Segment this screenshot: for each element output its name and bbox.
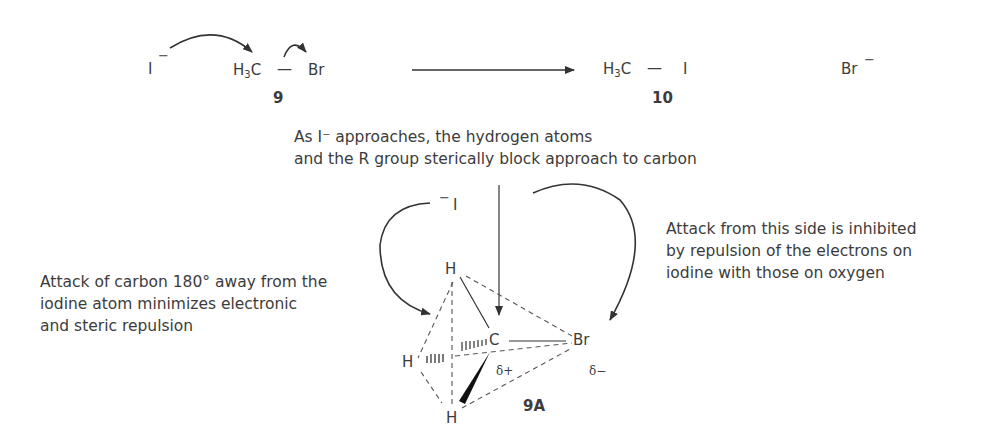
annotation-left-line3: and steric repulsion xyxy=(40,315,327,337)
hash-marks-h-left xyxy=(427,354,443,363)
leaving-group-bromine: Br xyxy=(308,61,324,79)
wedge-bond-c-h-bottom xyxy=(459,352,490,404)
annotation-steric-block: As I⁻ approaches, the hydrogen atoms and… xyxy=(294,126,697,170)
compound-label-10: 10 xyxy=(652,89,673,107)
left-attack-arrow xyxy=(380,203,430,314)
byproduct-charge: − xyxy=(864,52,875,67)
product-methyl: H3C xyxy=(603,60,631,79)
annotation-frontside-inhibited: Attack from this side is inhibited by re… xyxy=(666,218,916,284)
nucleophile-charge: − xyxy=(158,48,169,63)
product-iodine: I xyxy=(683,60,687,78)
delta-minus: δ− xyxy=(589,364,606,378)
annotation-right-line3: iodine with those on oxygen xyxy=(666,262,916,284)
product-bond: — xyxy=(647,59,662,77)
curved-arrow-iodide-to-carbon xyxy=(170,35,252,52)
iodide-9a: I xyxy=(453,196,457,214)
annotation-top-line2: and the R group sterically block approac… xyxy=(294,148,697,170)
iodide-charge-9a: − xyxy=(439,190,450,205)
bromine-9a: Br xyxy=(573,331,589,349)
delta-plus: δ+ xyxy=(496,364,513,378)
hydrogen-top: H xyxy=(445,260,456,278)
annotation-left-line2: iodine atom minimizes electronic xyxy=(40,293,327,315)
right-attack-arrow xyxy=(533,184,635,320)
annotation-right-line1: Attack from this side is inhibited xyxy=(666,218,916,240)
annotation-left-line1: Attack of carbon 180° away from the xyxy=(40,271,327,293)
structure-label-9a: 9A xyxy=(523,397,545,415)
nucleophile-iodide: I xyxy=(148,60,152,78)
hashed-bond-c-h-left xyxy=(462,339,486,351)
compound-label-9: 9 xyxy=(273,89,283,107)
curved-arrow-bond-to-bromine xyxy=(284,45,306,57)
reactant-methyl: H3C xyxy=(233,61,261,80)
reactant-bond: — xyxy=(277,60,292,78)
annotation-backside-attack: Attack of carbon 180° away from the iodi… xyxy=(40,271,327,337)
annotation-top-line1: As I⁻ approaches, the hydrogen atoms xyxy=(294,126,697,148)
carbon-center: C xyxy=(489,331,499,349)
hydrogen-left: H xyxy=(402,353,413,371)
hydrogen-bottom: H xyxy=(446,409,457,427)
bond-h-top-c xyxy=(460,277,489,328)
annotation-right-line2: by repulsion of the electrons on xyxy=(666,240,916,262)
byproduct-bromide: Br xyxy=(841,60,857,78)
